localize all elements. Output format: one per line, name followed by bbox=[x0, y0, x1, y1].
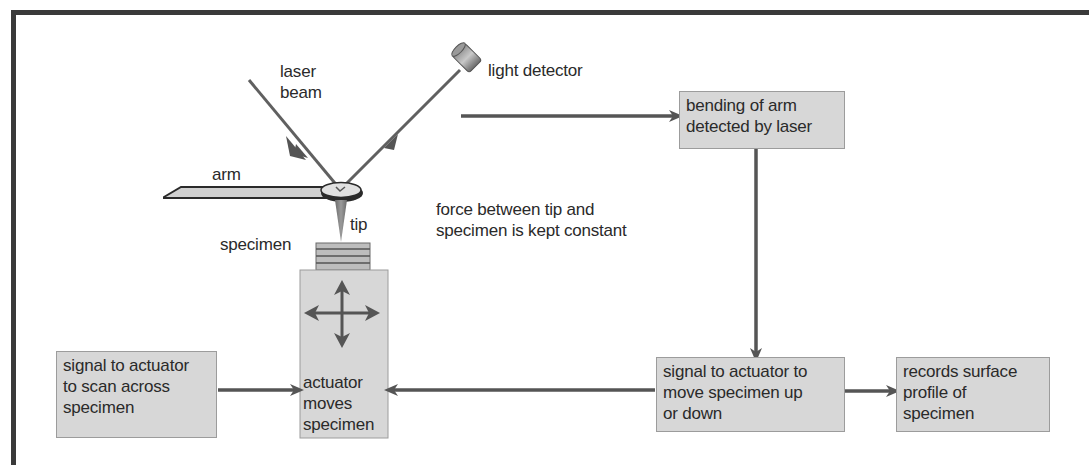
actuator-text: actuator moves specimen bbox=[303, 372, 374, 435]
box-records-line1: records surface bbox=[903, 361, 1043, 382]
box-scan-line1: signal to actuator bbox=[63, 355, 210, 376]
actuator-line1: actuator bbox=[303, 372, 374, 393]
box-records-line3: specimen bbox=[903, 403, 1043, 424]
specimen-stack bbox=[316, 243, 370, 270]
light-detector-label-text: light detector bbox=[488, 60, 583, 81]
light-detector-icon bbox=[450, 41, 482, 73]
box-scan-line3: specimen bbox=[63, 397, 210, 418]
box-scan-signal: signal to actuator to scan across specim… bbox=[56, 351, 217, 438]
tip-label: tip bbox=[350, 214, 367, 235]
box-scan-line2: to scan across bbox=[63, 376, 210, 397]
box-bending-line1: bending of arm bbox=[686, 95, 838, 116]
specimen-label: specimen bbox=[220, 234, 291, 255]
laser-beam-label-line2: beam bbox=[280, 82, 322, 103]
actuator-line2: moves bbox=[303, 393, 374, 414]
box-records-line2: profile of bbox=[903, 382, 1043, 403]
force-note-line2: specimen is kept constant bbox=[436, 220, 627, 241]
laser-beam-reflected bbox=[342, 70, 460, 188]
box-bending-line2: detected by laser bbox=[686, 116, 838, 137]
box-records-profile: records surface profile of specimen bbox=[896, 357, 1050, 432]
arm-label-text: arm bbox=[212, 164, 241, 185]
box-updown-signal: signal to actuator to move specimen up o… bbox=[656, 357, 845, 432]
actuator-line3: specimen bbox=[303, 414, 374, 435]
specimen-label-text: specimen bbox=[220, 234, 291, 255]
force-note-line1: force between tip and bbox=[436, 199, 627, 220]
light-detector-label: light detector bbox=[488, 60, 583, 81]
box-bending-detected: bending of arm detected by laser bbox=[679, 91, 845, 149]
tip-label-text: tip bbox=[350, 214, 367, 235]
box-updown-line1: signal to actuator to bbox=[663, 361, 838, 382]
arm-label: arm bbox=[212, 164, 241, 185]
probe-tip bbox=[335, 200, 347, 242]
box-updown-line3: or down bbox=[663, 403, 838, 424]
force-note: force between tip and specimen is kept c… bbox=[436, 199, 627, 241]
laser-beam-label-line1: laser bbox=[280, 61, 322, 82]
cantilever-arm bbox=[164, 183, 363, 203]
laser-beam-label: laser beam bbox=[280, 61, 322, 103]
box-updown-line2: move specimen up bbox=[663, 382, 838, 403]
